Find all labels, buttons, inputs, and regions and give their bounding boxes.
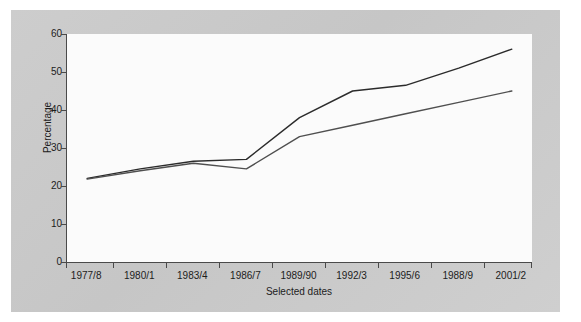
x-axis-tick-mark: [431, 263, 432, 268]
x-axis-tick-label: 1988/9: [428, 270, 488, 282]
x-axis-tick-label: 1995/6: [375, 270, 435, 282]
x-axis-tick-mark: [219, 263, 220, 268]
plot-area: [66, 34, 532, 263]
x-axis-tick-mark: [66, 263, 67, 268]
x-axis-tick-label: 1992/3: [322, 270, 382, 282]
x-axis-tick-mark: [113, 263, 114, 268]
x-axis-tick-mark: [378, 263, 379, 268]
x-axis-tick-label: 1980/1: [109, 270, 169, 282]
x-axis-tick-mark: [272, 263, 273, 268]
x-axis-tick-mark: [484, 263, 485, 268]
data-line-lower-line: [87, 91, 512, 179]
x-axis-tick-label: 1989/90: [269, 270, 329, 282]
y-axis-tick-label: 10: [32, 219, 62, 229]
line-chart-svg: [67, 34, 532, 262]
x-axis-tick-labels: 1977/81980/11983/41986/71989/901992/3199…: [66, 270, 532, 284]
x-axis-tick-mark: [166, 263, 167, 268]
x-axis-tick-label: 1986/7: [215, 270, 275, 282]
chart-figure: 0102030405060 Percentage 1977/81980/1198…: [11, 10, 560, 312]
x-axis-tick-mark: [531, 263, 532, 268]
data-line-upper-line: [87, 49, 512, 178]
y-axis-tick-label: 0: [32, 257, 62, 267]
x-axis-tick-label: 2001/2: [481, 270, 541, 282]
x-axis-tick-marks: [66, 263, 532, 269]
y-axis-tick-label: 60: [32, 29, 62, 39]
x-axis-tick-mark: [325, 263, 326, 268]
y-axis-label: Percentage: [42, 68, 53, 188]
x-axis-label: Selected dates: [66, 286, 532, 297]
x-axis-tick-label: 1983/4: [162, 270, 222, 282]
x-axis-tick-label: 1977/8: [56, 270, 116, 282]
